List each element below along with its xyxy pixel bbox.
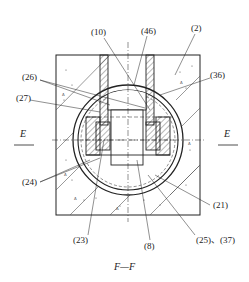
svg-text:Δ: Δ: [180, 80, 183, 85]
figure-caption: F—F: [114, 262, 135, 272]
section-marker-right: E: [224, 129, 230, 139]
label-23: (23): [73, 236, 88, 245]
label-2: (2): [191, 24, 202, 33]
label-27: (27): [16, 94, 31, 103]
section-marker-left: E: [20, 129, 26, 139]
label-10: (10): [91, 28, 106, 37]
label-21: (21): [213, 201, 228, 210]
label-36: (36): [210, 71, 225, 80]
label-25-37: (25)、(37): [196, 236, 235, 245]
svg-text:Δ: Δ: [188, 141, 191, 146]
svg-text:Δ: Δ: [116, 206, 119, 211]
label-24: (24): [22, 178, 37, 187]
label-26: (26): [22, 73, 37, 82]
svg-text:Δ: Δ: [64, 172, 67, 177]
label-8: (8): [144, 242, 155, 251]
label-46: (46): [141, 27, 156, 36]
svg-text:Δ: Δ: [74, 196, 77, 201]
svg-text:Δ: Δ: [62, 92, 65, 97]
